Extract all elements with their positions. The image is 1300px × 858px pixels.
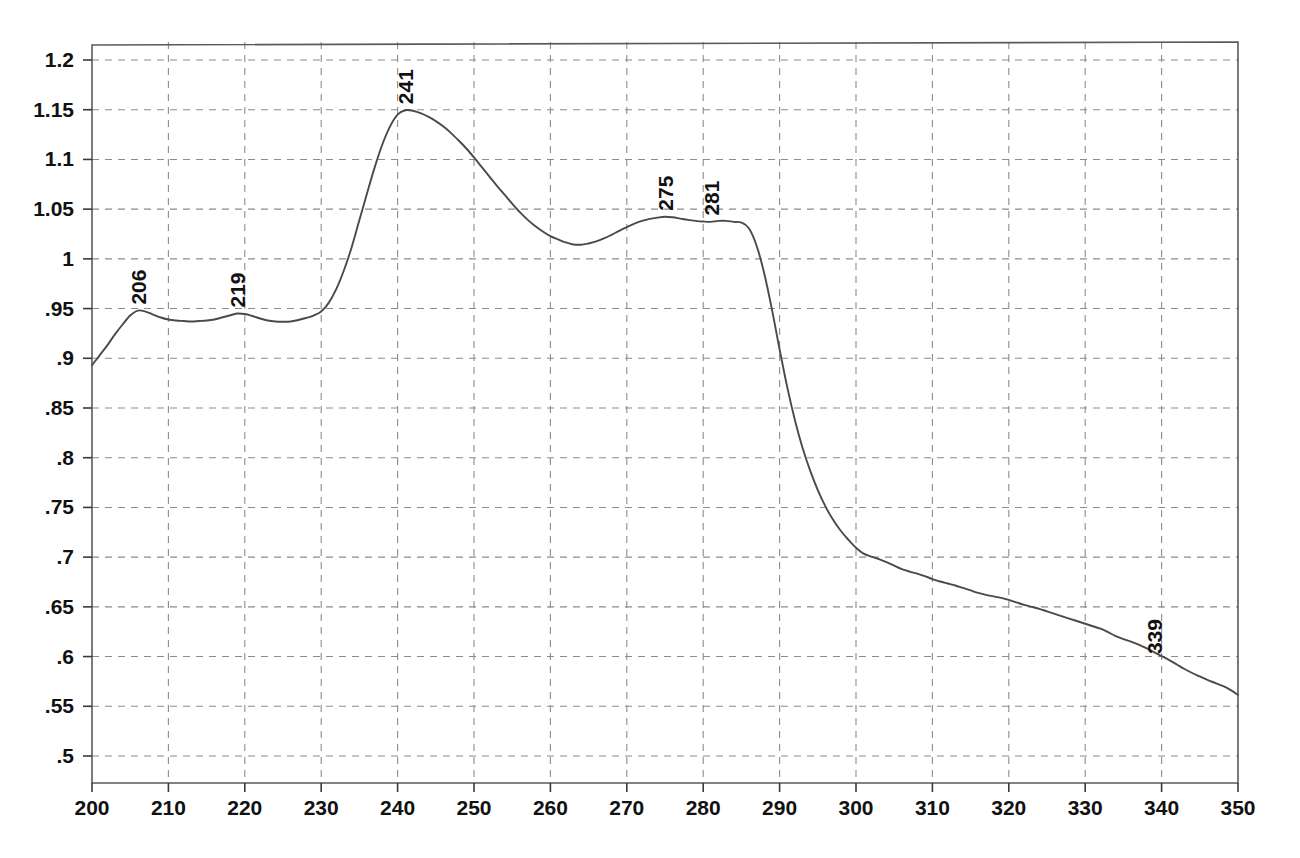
y-axis-tick-label: 1.15 [33,98,74,121]
chart-container: .5.55.6.65.7.75.8.85.9.9511.051.11.151.2… [0,0,1300,858]
y-axis-tick-label: 1.1 [45,147,75,170]
y-axis-tick-label: 1 [62,247,74,270]
y-axis-tick-label: .9 [56,346,74,369]
peak-label-339: 339 [1143,619,1166,654]
y-axis-tick-label: .75 [45,495,75,518]
x-axis-tick-label: 210 [151,796,186,819]
x-axis-tick-label: 340 [1144,796,1179,819]
x-axis-tick-label: 250 [456,796,491,819]
y-axis-tick-label: .6 [56,645,74,668]
x-axis-tick-label: 240 [380,796,415,819]
x-axis-tick-label: 200 [74,796,109,819]
x-axis-tick-label: 280 [686,796,721,819]
y-axis-tick-label: .8 [56,446,74,469]
y-axis-tick-label: 1.2 [45,48,74,71]
x-axis-tick-label: 230 [304,796,339,819]
x-axis-tick-label: 310 [915,796,950,819]
y-axis-tick-label: .7 [56,545,74,568]
spectrum-plot: .5.55.6.65.7.75.8.85.9.9511.051.11.151.2… [0,0,1300,858]
plot-background [0,0,1300,858]
y-axis-tick-label: .55 [45,694,75,717]
y-axis-tick-label: .65 [45,595,75,618]
y-axis-tick-label: .85 [45,396,75,419]
peak-label-281: 281 [700,180,723,215]
y-axis-tick-label: 1.05 [33,197,74,220]
peak-label-219: 219 [226,272,249,307]
y-axis-tick-label: .5 [56,744,74,767]
x-axis-tick-label: 320 [991,796,1026,819]
peak-label-241: 241 [394,69,417,104]
x-axis-tick-label: 300 [838,796,873,819]
x-axis-tick-label: 350 [1220,796,1255,819]
peak-label-275: 275 [654,175,677,210]
peak-label-206: 206 [127,270,150,305]
x-axis-tick-label: 290 [762,796,797,819]
x-axis-tick-label: 220 [227,796,262,819]
x-axis-tick-label: 330 [1068,796,1103,819]
y-axis-tick-label: .95 [45,297,75,320]
x-axis-tick-label: 270 [609,796,644,819]
x-axis-tick-label: 260 [533,796,568,819]
